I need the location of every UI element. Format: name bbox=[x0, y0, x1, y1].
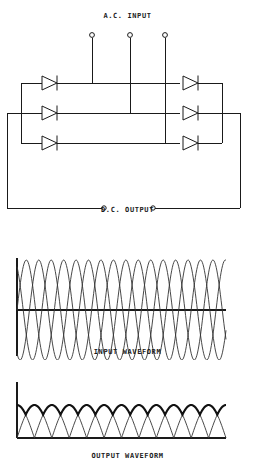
ac-terminal-3-icon bbox=[163, 33, 168, 38]
dc-output-label: D.C. OUTPUT bbox=[0, 206, 255, 214]
output-hump bbox=[17, 405, 34, 438]
ac-terminal-group bbox=[90, 33, 168, 38]
right-diode-2-triangle bbox=[183, 106, 198, 120]
left-diode-3-triangle bbox=[42, 136, 57, 150]
right-diode-3-triangle bbox=[183, 136, 198, 150]
left-diode-1-triangle bbox=[42, 76, 57, 90]
ac-input-label: A.C. INPUT bbox=[0, 12, 255, 20]
left-diode-2-triangle bbox=[42, 106, 57, 120]
input-waveform-plot bbox=[0, 250, 255, 360]
output-waveform-label: OUTPUT WAVEFORM bbox=[0, 452, 255, 460]
output-rectified-humps bbox=[17, 405, 226, 438]
output-hump bbox=[209, 405, 226, 438]
output-waveform-plot bbox=[0, 378, 255, 458]
right-diode-bank bbox=[183, 76, 222, 151]
ac-terminal-2-icon bbox=[128, 33, 133, 38]
ac-input-leads bbox=[92, 38, 165, 143]
negative-bus bbox=[7, 83, 102, 208]
circuit-diagram bbox=[0, 0, 255, 240]
phase-rails bbox=[57, 83, 180, 143]
ac-terminal-1-icon bbox=[90, 33, 95, 38]
left-diode-bank bbox=[21, 76, 57, 151]
right-diode-1-triangle bbox=[183, 76, 198, 90]
output-dc-envelope bbox=[17, 405, 226, 415]
rectifier-figure: A.C. INPUT D.C. OUTPUT INPUT WAVEFORM OU… bbox=[0, 0, 255, 470]
input-waveform-label: INPUT WAVEFORM bbox=[0, 348, 255, 356]
